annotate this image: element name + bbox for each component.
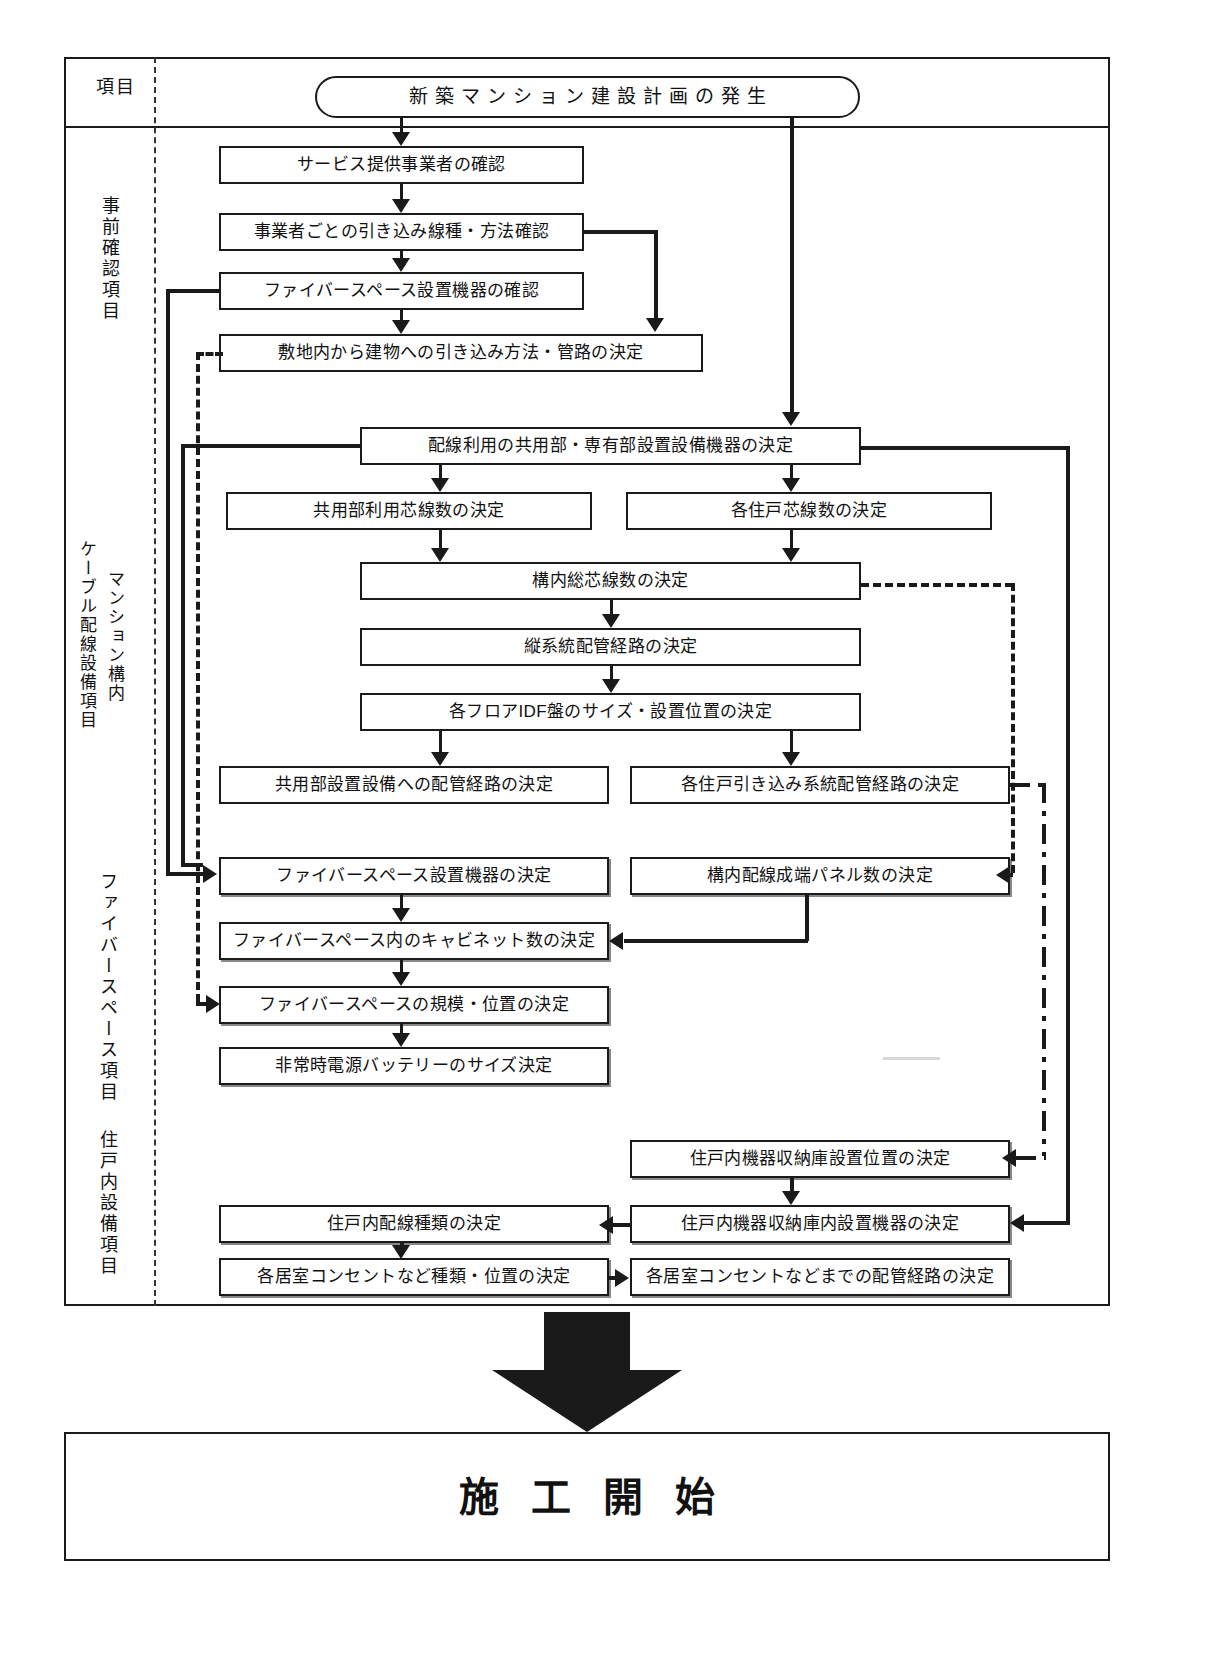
arrowhead-n19-to-n21: [392, 1245, 410, 1259]
node-floor-idf-size-position: 各フロアIDF盤のサイズ・設置位置の決定: [360, 693, 861, 731]
node-dwelling-cabinet-equipment: 住戸内機器収納庫内設置機器の決定: [630, 1205, 1010, 1243]
arrowhead-n08-to-n09: [602, 614, 620, 628]
arrowhead-left-bus-to-n13: [203, 865, 217, 883]
arrowhead-dash-to-n14: [996, 866, 1010, 884]
connector-n05-right-h: [861, 446, 1070, 450]
arrowhead-n06-to-n08: [431, 548, 449, 562]
arrowhead-n15-to-n16: [392, 972, 410, 986]
connector-n08-to-n09: [610, 600, 613, 614]
node-common-equipment-conduit: 共用部設置設備への配管経路の決定: [219, 766, 609, 804]
header-label: 項目: [96, 78, 136, 96]
connector-n09-to-n10: [610, 666, 613, 679]
connector-n04-left-dash-h: [196, 352, 223, 356]
arrowhead-n20-to-n19: [599, 1216, 613, 1234]
connector-n13-to-n15: [400, 895, 403, 908]
connector-n03-to-n04: [400, 310, 403, 320]
node-provider-line-method-check: 事業者ごとの引き込み線種・方法確認: [219, 213, 584, 251]
arrowhead-n02-right-to-n04: [646, 318, 664, 332]
node-emergency-battery-size: 非常時電源バッテリーのサイズ決定: [219, 1047, 609, 1085]
node-start: 新築マンション建設計画の発生: [315, 76, 860, 118]
node-dwelling-intake-conduit: 各住戸引き込み系統配管経路の決定: [630, 766, 1010, 804]
node-fiber-space-equipment-decide: ファイバースペース設置機器の決定: [219, 857, 609, 895]
arrowhead-n14-to-n15: [609, 932, 623, 950]
section-label-fiber-space: ファイバースペース項目: [98, 872, 116, 1103]
connector-left-bus-inner-v: [181, 444, 185, 866]
node-termination-panel-count: 構内配線成端パネル数の決定: [630, 857, 1010, 895]
arrowhead-n13-to-n15: [392, 908, 410, 922]
arrowhead-n05-to-n07: [782, 478, 800, 492]
arrowhead-n16-to-n17: [392, 1033, 410, 1047]
connector-n05-left-h: [181, 444, 362, 448]
label-column-separator: [154, 57, 156, 1306]
arrowhead-n02-to-n03: [392, 258, 410, 272]
construction-start-arrow: [544, 1312, 630, 1432]
node-site-to-building-intake: 敷地内から建物への引き込み方法・管路の決定: [219, 334, 703, 372]
connector-n12-right-dashdot-v: [1042, 783, 1046, 1156]
connector-n18-to-n20: [790, 1178, 794, 1191]
connector-start-right-v: [790, 118, 794, 412]
node-fiber-space-equipment-check: ファイバースペース設置機器の確認: [219, 272, 584, 310]
node-cabinet-count: ファイバースペース内のキャビネット数の決定: [219, 922, 609, 960]
arrowhead-n05-to-n06: [431, 478, 449, 492]
connector-n08-right-dash-h: [861, 583, 1013, 587]
node-construction-start: 施工開始: [64, 1432, 1110, 1561]
connector-n04-left-dash-v: [196, 352, 200, 1002]
section-label-building-cable-line2: ケーブル配線設備項目: [78, 540, 95, 730]
connector-n05-right-v: [1066, 446, 1070, 1222]
connector-n07-to-n08: [790, 530, 793, 548]
arrowhead-start-right-to-n05: [782, 412, 800, 426]
scan-artefact: [883, 1057, 940, 1060]
header-row-divider: [64, 126, 1110, 128]
connector-n14-to-n15-h: [624, 939, 808, 943]
node-vertical-conduit-route: 縦系統配管経路の決定: [360, 628, 861, 666]
node-fiber-space-scale-position: ファイバースペースの規模・位置の決定: [219, 986, 609, 1024]
arrowhead-dash-to-n16: [206, 995, 220, 1013]
connector-n03-left-h: [166, 289, 221, 293]
connector-n06-to-n08: [439, 530, 442, 548]
connector-dashdot-to-n18-h: [1016, 1156, 1046, 1160]
arrowhead-n21-to-n22: [615, 1269, 629, 1287]
arrowhead-n09-to-n10: [602, 679, 620, 693]
arrowhead-n01-to-n02: [392, 199, 410, 213]
node-dwelling-cabinet-position: 住戸内機器収納庫設置位置の決定: [630, 1140, 1010, 1178]
flowchart-page: 項目 事前確認項目 ケーブル配線設備項目 マンション構内 ファイバースペース項目…: [0, 0, 1218, 1665]
connector-n15-to-n16: [400, 960, 403, 972]
section-label-building-cable-line1: マンション構内: [106, 570, 123, 703]
connector-left-bus-outer-v: [166, 289, 170, 874]
connector-n05-to-n07: [790, 465, 793, 478]
node-total-core-count: 構内総芯線数の決定: [360, 562, 861, 600]
arrowhead-n18-to-n20: [782, 1191, 800, 1205]
arrowhead-right-loop-to-n20: [1010, 1214, 1024, 1232]
arrowhead-n03-to-n04: [392, 320, 410, 334]
connector-n02-right-v: [654, 230, 658, 318]
node-common-core-count: 共用部利用芯線数の決定: [226, 492, 592, 530]
node-dwelling-core-count: 各住戸芯線数の決定: [626, 492, 992, 530]
connector-n10-to-n12: [790, 731, 793, 752]
connector-n16-to-n17: [400, 1024, 403, 1033]
node-service-provider-check: サービス提供事業者の確認: [219, 146, 584, 184]
node-common-private-equipment: 配線利用の共用部・専有部設置設備機器の決定: [360, 427, 861, 465]
section-label-in-dwelling: 住戸内設備項目: [98, 1130, 116, 1277]
arrowhead-start-to-n01: [392, 132, 410, 146]
connector-n05-to-n06: [439, 465, 442, 478]
connector-n02-to-n03: [400, 251, 403, 258]
connector-n02-right-h: [584, 230, 657, 234]
node-outlet-type-position: 各居室コンセントなど種類・位置の決定: [219, 1258, 609, 1296]
arrowhead-n10-to-n11: [431, 752, 449, 766]
arrowhead-n10-to-n12: [782, 752, 800, 766]
connector-right-loop-to-n20-h: [1024, 1221, 1070, 1225]
node-outlet-conduit-route: 各居室コンセントなどまでの配管経路の決定: [630, 1258, 1010, 1296]
connector-n08-right-dash-v: [1011, 583, 1015, 873]
section-label-pre-check: 事前確認項目: [100, 196, 118, 322]
connector-n01-to-n02: [400, 184, 403, 200]
arrowhead-n07-to-n08: [782, 548, 800, 562]
arrowhead-dashdot-to-n18: [1002, 1149, 1016, 1167]
connector-n20-to-n19-h: [613, 1223, 631, 1227]
connector-n10-to-n11: [439, 731, 442, 752]
node-dwelling-wiring-type: 住戸内配線種類の決定: [219, 1205, 609, 1243]
connector-n14-down-v: [805, 895, 809, 941]
connector-n12-right-dashdot-h: [1010, 783, 1046, 787]
